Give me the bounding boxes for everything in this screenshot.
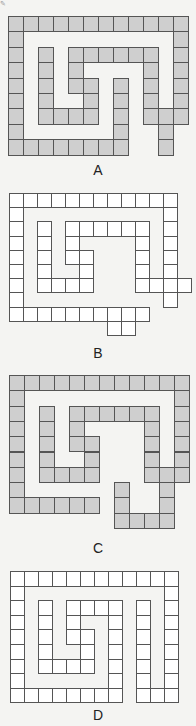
grid-cell (53, 16, 69, 32)
grid-cell (121, 221, 136, 236)
grid-cell (159, 482, 175, 498)
grid-cell (83, 139, 99, 155)
grid-cell (66, 659, 81, 675)
grid-cell (114, 497, 130, 513)
grid-cell (144, 375, 160, 391)
grid-cell (8, 47, 24, 63)
grid-cell (9, 421, 25, 437)
grid-cell (8, 31, 24, 47)
grid-cell (143, 62, 159, 78)
grid-cell (158, 108, 174, 124)
grid-cell (99, 406, 115, 422)
grid-cell (150, 571, 165, 587)
grid-cell (143, 16, 159, 32)
grid-cell (108, 659, 123, 675)
grid-cell (54, 375, 70, 391)
grid-cell (9, 436, 25, 452)
grid-cell (93, 307, 108, 322)
grid-cell (38, 93, 54, 109)
grid-cell (68, 78, 84, 94)
grid-cell (69, 497, 85, 513)
grid-cell (53, 139, 69, 155)
grid-cell (65, 278, 80, 293)
grid-cell (113, 124, 129, 140)
grid-cell (129, 513, 145, 529)
grid-cell (143, 93, 159, 109)
grid-cell (8, 62, 24, 78)
grid-cell (93, 193, 108, 208)
grid-cell (144, 406, 160, 422)
grid-cell (113, 16, 129, 32)
grid-cell (163, 250, 178, 265)
grid-cell (39, 436, 55, 452)
grid-cell (9, 406, 25, 422)
grid-cell (24, 375, 40, 391)
grid-cell (144, 452, 160, 468)
grid-cell (113, 78, 129, 94)
grid-cell (135, 264, 150, 279)
grid-cell (129, 406, 145, 422)
grid-cell (69, 436, 85, 452)
grid-cell (136, 600, 151, 616)
grid-cell (159, 467, 175, 483)
grid-cell (66, 629, 81, 645)
grid-cell (159, 497, 175, 513)
grid-cell (93, 221, 108, 236)
grid-cell (68, 47, 84, 63)
grid-cell (83, 78, 99, 94)
grid-cell (24, 571, 39, 587)
grid-cell (39, 421, 55, 437)
grid-cell (121, 193, 136, 208)
grid-cell (143, 108, 159, 124)
grid-cell (135, 221, 150, 236)
grid-cell (65, 221, 80, 236)
grid-cell (114, 513, 130, 529)
grid-cell (8, 16, 24, 32)
grid-cell (80, 600, 95, 616)
grid-cell (9, 467, 25, 483)
grid-cell (135, 307, 150, 322)
grid-cell (79, 221, 94, 236)
grid-cell (136, 644, 151, 660)
grid-cell (135, 250, 150, 265)
grid-cell (108, 615, 123, 631)
grid-cell (122, 571, 137, 587)
figure-label-d: D (0, 707, 196, 723)
grid-cell (23, 193, 38, 208)
grid-cell (173, 62, 189, 78)
grid-cell (23, 16, 39, 32)
grid-cell (135, 193, 150, 208)
grid-cell (94, 688, 109, 704)
grid-cell (129, 375, 145, 391)
grid-cell (24, 497, 40, 513)
grid-cell (158, 124, 174, 140)
grid-cell (10, 571, 25, 587)
grid-cell (158, 16, 174, 32)
grid-cell (39, 406, 55, 422)
grid-cell (39, 467, 55, 483)
grid-cell (108, 629, 123, 645)
grid-cell (163, 221, 178, 236)
grid-cell (177, 278, 192, 293)
figure-label-b: B (0, 345, 196, 361)
grid-cell (149, 278, 164, 293)
grid-cell (9, 278, 24, 293)
grid-cell (10, 615, 25, 631)
grid-cell (9, 193, 24, 208)
grid-cell (37, 221, 52, 236)
grid-cell (163, 278, 178, 293)
grid-cell (128, 16, 144, 32)
grid-cell (54, 497, 70, 513)
grid-cell (135, 278, 150, 293)
grid-cell (39, 452, 55, 468)
grid-cell (164, 571, 179, 587)
grid-cell (37, 307, 52, 322)
grid-cell (164, 629, 179, 645)
pencil-icon: ✎ (0, 0, 6, 8)
grid-cell (52, 571, 67, 587)
grid-cell (65, 307, 80, 322)
grid-cell (83, 108, 99, 124)
grid-cell (53, 108, 69, 124)
grid-cell (144, 513, 160, 529)
grid-cell (84, 436, 100, 452)
